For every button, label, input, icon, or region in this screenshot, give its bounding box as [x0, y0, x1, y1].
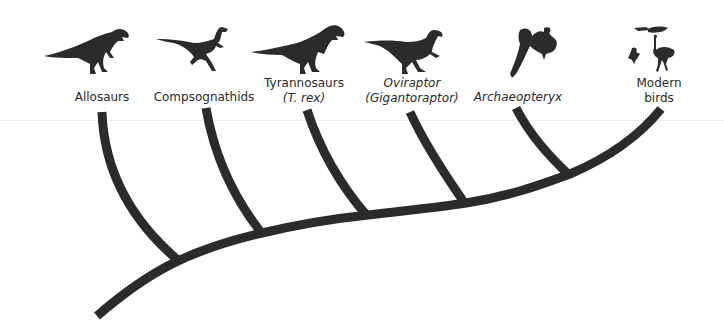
taxon-label-tyrannosaurs: Tyrannosaurs (T. rex): [264, 76, 344, 106]
branch-oviraptor: [410, 112, 466, 205]
taxon-label-compsognathids: Compsognathids: [154, 90, 255, 105]
taxon-label-modern-birds: Modern birds: [636, 76, 681, 106]
branch-tyrannosaurs: [307, 110, 368, 217]
branch-archaeopteryx: [516, 108, 570, 176]
branch-allosaurs: [102, 112, 180, 262]
taxon-label-allosaurs: Allosaurs: [75, 90, 130, 105]
branch-compsognathids: [206, 108, 263, 235]
allosaur-silhouette-icon: [42, 22, 132, 74]
taxon-label-oviraptor: Oviraptor (Gigantoraptor): [365, 76, 459, 106]
tyrannosaur-silhouette-icon: [248, 22, 348, 74]
archaeopteryx-silhouette-icon: [500, 22, 560, 80]
compsognathid-silhouette-icon: [154, 25, 230, 73]
main-trunk: [97, 109, 661, 316]
cladogram: Allosaurs Compsognathids Tyrannosaurs (T…: [0, 0, 724, 335]
taxon-label-archaeopteryx: Archaeopteryx: [474, 90, 562, 105]
oviraptor-silhouette-icon: [362, 28, 446, 74]
modern-birds-silhouette-icon: [624, 24, 680, 74]
